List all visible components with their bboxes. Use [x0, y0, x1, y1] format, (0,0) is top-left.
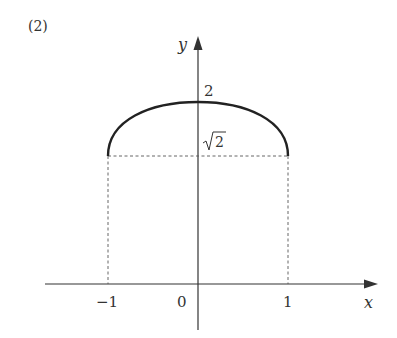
x-tick-1: 1: [283, 295, 293, 310]
y-value-sqrt2-label: 2: [215, 135, 224, 149]
origin-label: 0: [177, 295, 187, 310]
y-axis-label: y: [178, 37, 187, 53]
problem-label: (2): [28, 19, 48, 33]
y-axis-arrow-icon: [194, 36, 203, 50]
y-value-2-label: 2: [204, 84, 214, 99]
plot-canvas: [0, 0, 397, 338]
x-axis-arrow-icon: [364, 280, 378, 289]
x-tick-neg1: −1: [96, 295, 118, 310]
x-axis-label: x: [364, 295, 373, 311]
